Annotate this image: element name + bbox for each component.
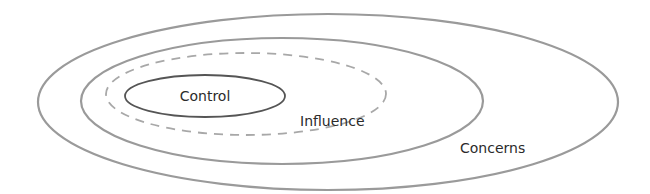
concerns-label: Concerns — [460, 140, 525, 156]
influence-label: Influence — [300, 113, 365, 129]
circles-of-concern-diagram: Control Influence Concerns — [0, 0, 650, 194]
control-label: Control — [180, 88, 231, 104]
